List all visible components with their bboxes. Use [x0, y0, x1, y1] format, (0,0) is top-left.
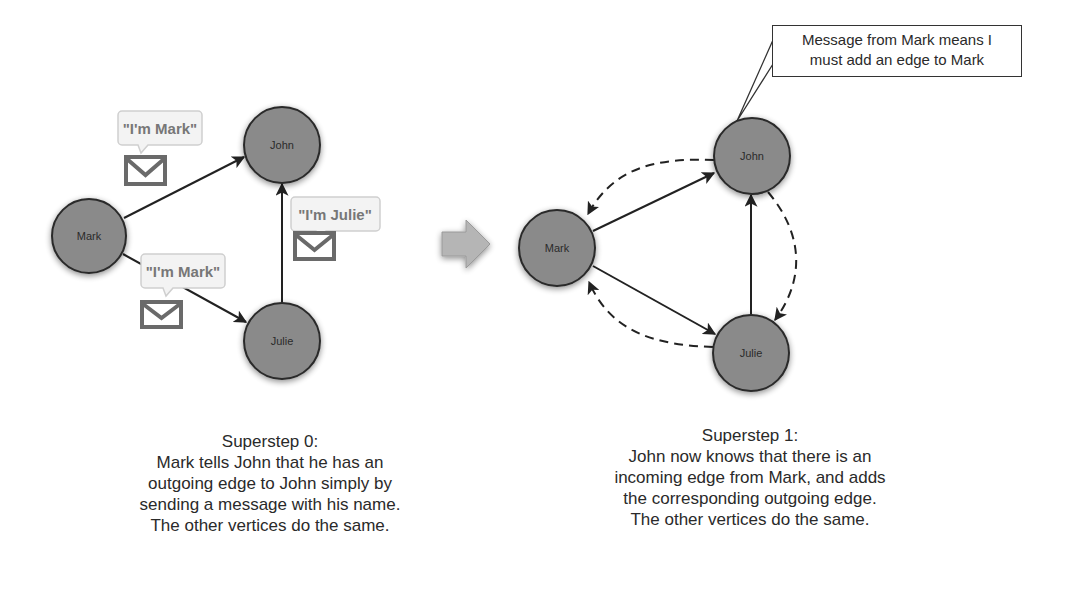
callout-pointer [737, 40, 773, 121]
callout-line: Message from Mark means I [773, 30, 1021, 50]
message-text: "I'm Julie" [298, 206, 372, 223]
caption-superstep-0: Superstep 0: Mark tells John that he has… [90, 431, 450, 536]
right-panel-graph: Mark John Julie [519, 40, 796, 391]
envelope-icon [126, 157, 165, 184]
envelope-icon [142, 302, 181, 327]
callout-line: must add an edge to Mark [773, 50, 1021, 70]
caption-line: the corresponding outgoing edge. [570, 488, 930, 509]
node-label-john: John [270, 139, 294, 151]
callout-box: Message from Mark means I must add an ed… [772, 25, 1022, 77]
edge-mark-to-julie [593, 266, 715, 334]
right-arrow-icon [442, 220, 490, 268]
edge-mark-to-john [593, 173, 714, 231]
node-label-julie: Julie [740, 347, 763, 359]
edge-john-to-julie-dashed [768, 192, 796, 320]
message-text: "I'm Mark" [123, 120, 197, 137]
edge-julie-to-mark-dashed [589, 282, 713, 347]
caption-line: John now knows that there is an [570, 446, 930, 467]
caption-title: Superstep 0: [90, 431, 450, 452]
node-label-julie: Julie [271, 335, 294, 347]
caption-line: The other vertices do the same. [90, 515, 450, 536]
message-bubble-mark-to-john: "I'm Mark" [118, 111, 202, 153]
message-bubble-mark-to-julie: "I'm Mark" [141, 254, 225, 296]
edge-john-to-mark-dashed [588, 160, 714, 214]
caption-line: outgoing edge to John simply by [90, 473, 450, 494]
caption-line: The other vertices do the same. [570, 509, 930, 530]
caption-line: Mark tells John that he has an [90, 452, 450, 473]
node-label-john: John [740, 150, 764, 162]
caption-title: Superstep 1: [570, 425, 930, 446]
node-label-mark: Mark [545, 242, 570, 254]
envelope-icon [295, 233, 334, 259]
message-text: "I'm Mark" [146, 263, 220, 280]
node-label-mark: Mark [77, 230, 102, 242]
caption-superstep-1: Superstep 1: John now knows that there i… [570, 425, 930, 530]
left-panel-graph: Mark John Julie "I'm Mark" "I'm Mark" [52, 107, 380, 379]
caption-line: sending a message with his name. [90, 494, 450, 515]
caption-line: incoming edge from Mark, and adds [570, 467, 930, 488]
